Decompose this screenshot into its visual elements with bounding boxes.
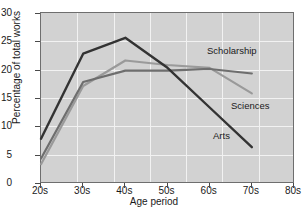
x-tick-mark xyxy=(40,183,41,188)
y-tick-mark xyxy=(35,155,40,156)
x-tick-mark xyxy=(167,183,168,188)
y-tick-mark xyxy=(35,98,40,99)
x-tick-mark xyxy=(209,183,210,188)
y-axis-label: Percentage of total works xyxy=(11,0,22,138)
series-label-sciences: Sciences xyxy=(231,100,270,111)
series-label-arts: Arts xyxy=(213,130,230,141)
plot-area: Scholarship Sciences Arts xyxy=(40,12,294,183)
y-tick-mark xyxy=(35,13,40,14)
series-label-scholarship: Scholarship xyxy=(207,45,257,56)
y-tick-label: 5 xyxy=(0,150,12,160)
x-tick-mark xyxy=(251,183,252,188)
y-tick-mark xyxy=(35,70,40,71)
x-axis-label: Age period xyxy=(0,196,308,207)
x-tick-mark xyxy=(124,183,125,188)
y-tick-mark xyxy=(35,41,40,42)
x-tick-mark xyxy=(293,183,294,188)
x-tick-mark xyxy=(82,183,83,188)
series-line-scholarship xyxy=(41,69,252,159)
y-tick-mark xyxy=(35,126,40,127)
series-lines xyxy=(41,13,295,184)
line-chart: Scholarship Sciences Arts 051015202530 2… xyxy=(0,0,308,209)
y-tick-label: 0 xyxy=(0,178,12,188)
